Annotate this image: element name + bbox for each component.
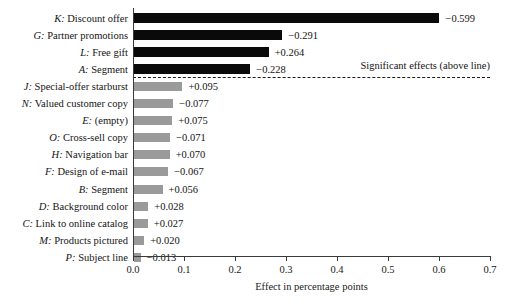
bar-row-key: O: <box>49 132 60 143</box>
bar-row-label: G: Partner promotions <box>0 27 128 44</box>
y-axis-line <box>133 8 134 256</box>
bar-row-label: K: Discount offer <box>0 10 128 27</box>
effects-bar-chart: Significant effects (above line) K: Disc… <box>0 0 512 303</box>
bar-row: J: Special-offer starburst+0.095 <box>0 78 512 95</box>
bar-row-label: N: Valued customer copy <box>0 95 128 112</box>
x-axis-tick <box>286 256 287 261</box>
bar-row-key: K: <box>54 13 65 24</box>
bar-value-label: +0.095 <box>188 78 218 95</box>
bar-row-label: A: Segment <box>0 61 128 78</box>
bar <box>134 47 269 57</box>
bar-row-label: H: Navigation bar <box>0 146 128 163</box>
x-axis-title: Effect in percentage points <box>133 281 490 292</box>
bar <box>134 202 148 211</box>
bar-row: C: Link to online catalog+0.027 <box>0 215 512 232</box>
x-axis-line <box>133 256 490 257</box>
bar <box>134 150 170 159</box>
bar-row-key: L: <box>80 47 89 58</box>
bar-value-label: +0.056 <box>169 181 199 198</box>
x-axis-tick <box>235 256 236 261</box>
bar-row: O: Cross-sell copy−0.071 <box>0 129 512 146</box>
bar-value-label: +0.027 <box>154 215 184 232</box>
bar <box>134 116 172 125</box>
bar-value-label: −0.291 <box>288 27 318 44</box>
bar-row-key: H: <box>52 149 63 160</box>
bar-row-label: L: Free gift <box>0 44 128 61</box>
bar-row-label: C: Link to online catalog <box>0 215 128 232</box>
x-axis-tick <box>490 256 491 261</box>
bar-value-label: −0.067 <box>174 163 204 180</box>
bar-value-label: +0.070 <box>176 146 206 163</box>
bar-value-label: +0.028 <box>154 198 184 215</box>
bar-row: M: Products pictured+0.020 <box>0 232 512 249</box>
bar-row-key: N: <box>22 98 33 109</box>
bar-row: K: Discount offer−0.599 <box>0 10 512 27</box>
bar-row-key: E: <box>82 115 92 126</box>
bar-row-key: G: <box>34 30 45 41</box>
bar-row-key: F: <box>45 166 55 177</box>
bar-value-label: −0.228 <box>256 61 286 78</box>
x-axis-tick-label: 0.1 <box>162 263 206 276</box>
bar-row: L: Free gift+0.264 <box>0 44 512 61</box>
bar-value-label: +0.020 <box>150 232 180 249</box>
x-axis-tick-label: 0.3 <box>264 263 308 276</box>
bar-row-label: M: Products pictured <box>0 232 128 249</box>
x-axis-tick-label: 0.6 <box>417 263 461 276</box>
bar-row-label: B: Segment <box>0 181 128 198</box>
bar-row-label: O: Cross-sell copy <box>0 129 128 146</box>
x-axis-tick <box>439 256 440 261</box>
bar <box>134 133 170 142</box>
x-axis-tick-label: 0.5 <box>366 263 410 276</box>
bar-row: F: Design of e-mail−0.067 <box>0 163 512 180</box>
bar <box>134 30 282 40</box>
bar <box>134 99 173 108</box>
bar <box>134 236 144 245</box>
bar-row: D: Background color+0.028 <box>0 198 512 215</box>
bar-row-key: P: <box>66 252 76 263</box>
bar-row-label: D: Background color <box>0 198 128 215</box>
bar-row-key: C: <box>22 218 33 229</box>
bar <box>134 219 148 228</box>
bar-row-key: M: <box>39 235 51 246</box>
bar <box>134 167 168 176</box>
bar-value-label: −0.071 <box>176 129 206 146</box>
x-axis-tick-label: 0.0 <box>111 263 155 276</box>
bar <box>134 185 163 194</box>
bar-row-key: D: <box>39 201 50 212</box>
x-axis-tick <box>337 256 338 261</box>
bar-row-key: B: <box>79 184 89 195</box>
bar-row-label: P: Subject line <box>0 249 128 266</box>
bar-value-label: +0.264 <box>275 44 305 61</box>
bar-value-label: −0.077 <box>179 95 209 112</box>
bar-row-key: A: <box>79 64 89 75</box>
bar <box>134 253 141 262</box>
bar <box>134 13 439 23</box>
bar <box>134 82 182 91</box>
x-axis-tick <box>388 256 389 261</box>
bar-row: A: Segment−0.228 <box>0 61 512 78</box>
x-axis-tick-label: 0.4 <box>315 263 359 276</box>
bar-row-label: E: (empty) <box>0 112 128 129</box>
bar-value-label: +0.075 <box>178 112 208 129</box>
bar-row: N: Valued customer copy−0.077 <box>0 95 512 112</box>
x-axis-tick <box>133 256 134 261</box>
bar-row: H: Navigation bar+0.070 <box>0 146 512 163</box>
x-axis-tick <box>184 256 185 261</box>
bar <box>134 64 250 74</box>
bar-row-key: J: <box>24 81 32 92</box>
x-axis-tick-label: 0.2 <box>213 263 257 276</box>
bar-row: G: Partner promotions−0.291 <box>0 27 512 44</box>
bar-row-label: F: Design of e-mail <box>0 163 128 180</box>
bar-row: B: Segment+0.056 <box>0 181 512 198</box>
x-axis-tick-label: 0.7 <box>468 263 512 276</box>
bar-value-label: −0.599 <box>445 10 475 27</box>
bar-row: E: (empty)+0.075 <box>0 112 512 129</box>
bar-row-label: J: Special-offer starburst <box>0 78 128 95</box>
